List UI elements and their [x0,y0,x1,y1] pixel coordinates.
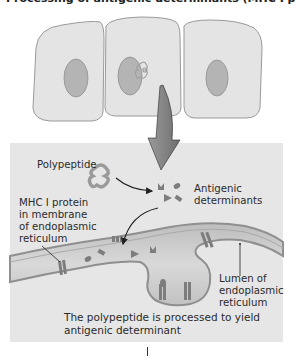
antigen-fragments [158,182,182,202]
label-polypeptide: Polypeptide [37,159,97,171]
panel-caption: The polypeptide is processed to yield an… [64,311,260,336]
processing-arrow [116,178,152,191]
label-antigenic-determinants: Antigenic determinants [194,183,262,207]
mhc-protein [112,236,123,242]
label-mhc-protein: MHC I protein in membrane of endoplasmic… [19,197,97,245]
cell-middle [105,17,181,116]
nucleus [64,59,88,97]
nucleus [206,60,228,96]
continuation-line [147,347,148,356]
cell-left [33,21,104,121]
cell-right [184,20,262,118]
nucleus [118,57,142,95]
label-lumen: Lumen of endoplasmic reticulum [219,273,284,309]
